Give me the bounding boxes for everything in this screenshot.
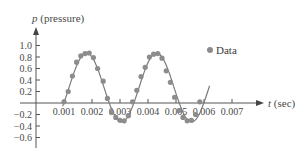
data-point (113, 115, 118, 120)
data-point (61, 99, 66, 104)
data-point (95, 66, 100, 71)
y-tick-label: 0.8 (20, 52, 33, 63)
x-tick-label: 0.002 (81, 106, 104, 117)
y-tick-label: 0.2 (20, 86, 33, 97)
data-point (105, 96, 110, 101)
x-axis-unit: (sec) (271, 97, 295, 110)
x-axis-arrow-icon (256, 100, 264, 106)
legend-data-label: Data (216, 44, 237, 56)
data-point (164, 68, 169, 73)
data-point (91, 55, 96, 60)
data-point (109, 110, 114, 115)
y-tick-label: 1.0 (20, 40, 33, 51)
y-tick-label: −0.4 (14, 121, 32, 132)
legend-data-marker-icon (207, 47, 213, 53)
y-tick-label: 0.6 (20, 63, 33, 74)
data-point (87, 50, 92, 55)
x-ticks: 0.0010.0020.0030.0040.0050.0060.007 (53, 99, 244, 117)
data-point (126, 113, 131, 118)
data-point (66, 89, 71, 94)
data-point (147, 54, 152, 59)
data-point (180, 115, 185, 120)
x-tick-label: 0.007 (221, 106, 244, 117)
data-point (176, 108, 181, 113)
data-point (159, 56, 164, 61)
data-point (138, 74, 143, 79)
data-point (134, 88, 139, 93)
data-point (155, 51, 160, 56)
data-point (193, 112, 198, 117)
x-axis-title: t (sec) (268, 97, 296, 110)
data-point (189, 118, 194, 123)
y-axis-title: p (pressure) (31, 12, 85, 25)
data-point (74, 60, 79, 65)
data-point (172, 95, 177, 100)
y-tick-label: −0.6 (14, 132, 32, 143)
data-point (70, 73, 75, 78)
y-tick-label: 0.4 (20, 75, 33, 86)
y-axis-arrow-icon (33, 27, 39, 35)
y-axis-unit: (pressure) (38, 12, 85, 25)
y-tick-label: −0.2 (14, 109, 32, 120)
x-tick-label: 0.004 (137, 106, 160, 117)
x-tick-label: 0.001 (53, 106, 76, 117)
data-point (130, 99, 135, 104)
data-point (197, 99, 202, 104)
data-point (168, 80, 173, 85)
data-point (101, 79, 106, 84)
data-point (143, 65, 148, 70)
pressure-vs-time-chart: 0.0010.0020.0030.0040.0050.0060.007 1.00… (0, 0, 308, 162)
legend: Data (207, 44, 237, 56)
data-point (122, 118, 127, 123)
